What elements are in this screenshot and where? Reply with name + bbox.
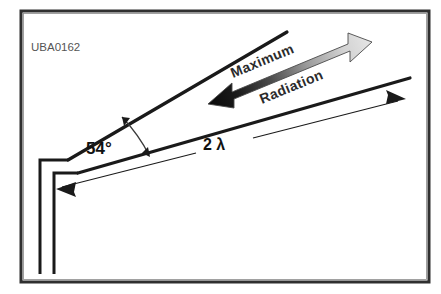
- antenna-diagram-figure: UBA0162 54° 2 λ Maximum Radiation: [0, 0, 441, 294]
- dimension-label: 2 λ: [203, 136, 225, 153]
- figure-id-label: UBA0162: [31, 41, 80, 53]
- diagram-canvas: UBA0162 54° 2 λ Maximum Radiation: [0, 0, 441, 294]
- angle-label: 54°: [86, 139, 112, 158]
